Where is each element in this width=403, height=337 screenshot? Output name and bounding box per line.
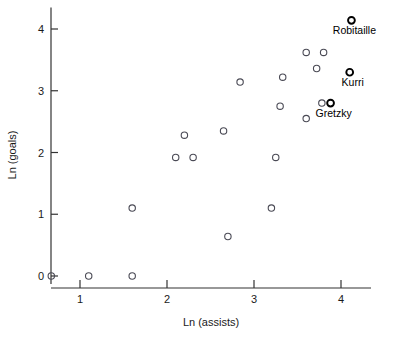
data-points bbox=[48, 17, 355, 279]
data-point bbox=[319, 100, 325, 106]
data-point bbox=[225, 233, 231, 239]
data-point-label: Gretzky bbox=[315, 107, 352, 119]
data-point bbox=[273, 154, 279, 160]
data-point-highlighted bbox=[327, 100, 334, 107]
data-point bbox=[277, 103, 283, 109]
x-tick-label: 1 bbox=[77, 293, 83, 305]
data-point bbox=[268, 205, 274, 211]
axis-titles: Ln (assists)Ln (goals) bbox=[6, 131, 239, 328]
x-tick-label: 2 bbox=[164, 293, 170, 305]
data-point bbox=[280, 74, 286, 80]
y-axis-title: Ln (goals) bbox=[6, 131, 18, 180]
plot-canvas: 012341234 GretzkyKurriRobitaille Ln (ass… bbox=[0, 0, 403, 337]
y-tick-label: 0 bbox=[38, 270, 44, 282]
scatter-plot-figure: 012341234 GretzkyKurriRobitaille Ln (ass… bbox=[0, 0, 403, 337]
y-tick-label: 2 bbox=[38, 147, 44, 159]
data-point-highlighted bbox=[348, 17, 355, 24]
data-point-label: Kurri bbox=[342, 76, 364, 88]
data-point bbox=[86, 273, 92, 279]
x-tick-label: 3 bbox=[251, 293, 257, 305]
data-point bbox=[181, 132, 187, 138]
data-point bbox=[190, 154, 196, 160]
data-point bbox=[173, 154, 179, 160]
y-tick-label: 3 bbox=[38, 85, 44, 97]
data-point bbox=[303, 49, 309, 55]
x-tick-label: 4 bbox=[338, 293, 344, 305]
tick-labels: 012341234 bbox=[38, 23, 344, 305]
data-point bbox=[220, 128, 226, 134]
data-point bbox=[129, 205, 135, 211]
data-point-highlighted bbox=[346, 69, 353, 76]
y-tick-label: 4 bbox=[38, 23, 44, 35]
data-point bbox=[129, 273, 135, 279]
data-point bbox=[313, 65, 319, 71]
x-axis-title: Ln (assists) bbox=[183, 316, 239, 328]
data-point bbox=[320, 49, 326, 55]
data-point-label: Robitaille bbox=[333, 24, 376, 36]
data-point bbox=[237, 79, 243, 85]
y-tick-label: 1 bbox=[38, 208, 44, 220]
data-point bbox=[303, 115, 309, 121]
